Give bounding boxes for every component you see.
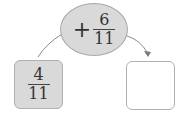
operation-fraction: 6 11 — [93, 11, 115, 48]
fraction-numerator: 4 — [33, 66, 43, 84]
fraction-denominator: 11 — [28, 85, 48, 103]
connector-operation-to-result — [127, 36, 147, 52]
fraction-denominator: 11 — [94, 30, 114, 48]
plus-sign: + — [73, 19, 91, 41]
start-fraction: 4 11 — [28, 66, 50, 103]
start-value-box: 4 11 — [14, 60, 63, 109]
result-answer-box[interactable] — [126, 61, 175, 110]
connector-start-to-operation — [38, 34, 62, 57]
operation-ellipse: + 6 11 — [60, 3, 128, 56]
arrow-head-icon — [144, 51, 151, 57]
fraction-numerator: 6 — [99, 11, 109, 29]
